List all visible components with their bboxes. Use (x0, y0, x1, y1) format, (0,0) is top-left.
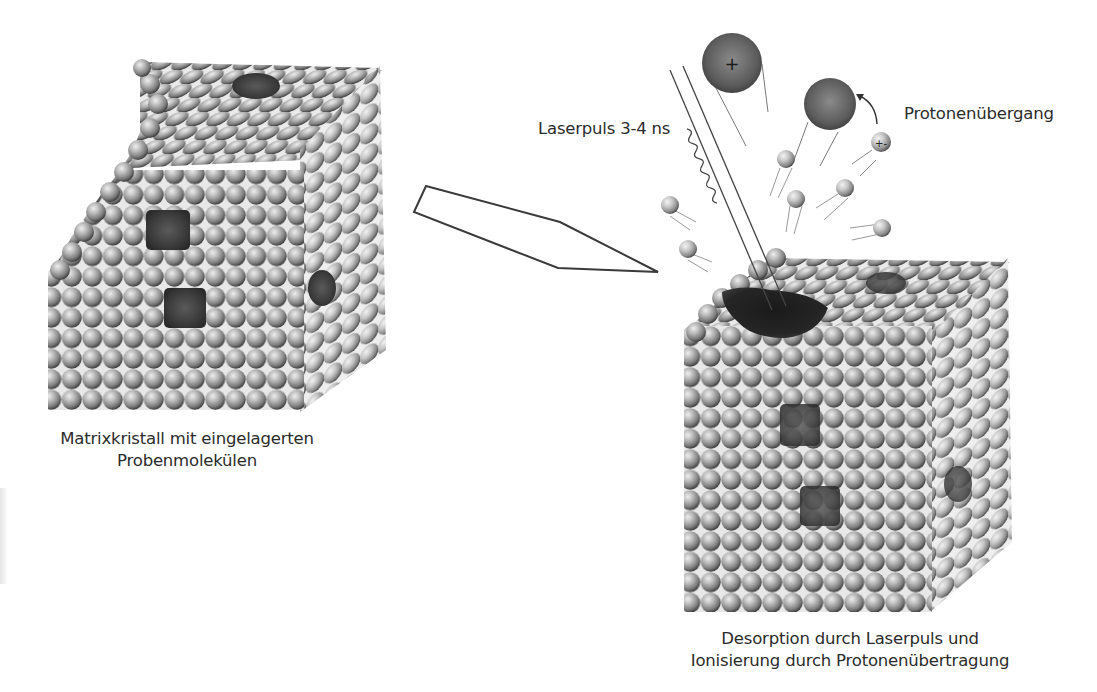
matrix-particle (786, 190, 805, 234)
matrix-particle (816, 179, 854, 220)
inclusion-2 (164, 288, 206, 328)
matrix-crystal-left (0, 0, 386, 412)
left-caption: Matrixkristall mit eingelagerten Probenm… (52, 428, 322, 472)
maldi-diagram: + +- (0, 0, 1097, 692)
analyte-ion: + (702, 33, 768, 146)
inclusion-1 (780, 404, 820, 446)
inclusion-4 (944, 466, 972, 502)
inclusion-4 (308, 270, 336, 306)
left-caption-line1: Matrixkristall mit eingelagerten (52, 428, 322, 450)
proton: +- (852, 132, 891, 176)
laser-pulse-label: Laserpuls 3-4 ns (538, 118, 670, 140)
right-caption: Desorption durch Laserpuls und Ionisieru… (660, 628, 1040, 672)
inclusion-2 (800, 486, 840, 526)
positive-charge-icon: + (724, 53, 739, 74)
matrix-particle (850, 219, 891, 240)
analyte-molecule (794, 78, 856, 166)
matrix-particle (770, 150, 795, 198)
proton-transfer-arrow (860, 96, 877, 124)
proton-transfer-label: Protonenübergang (904, 103, 1054, 125)
page-edge-artifact (0, 488, 6, 584)
crystal-front-face (684, 326, 932, 612)
inclusion-3 (232, 73, 280, 99)
inclusion-1 (146, 210, 190, 250)
inclusion-3 (866, 272, 906, 294)
right-caption-line1: Desorption durch Laserpuls und (660, 628, 1040, 650)
process-arrow (414, 186, 658, 272)
left-caption-line2: Probenmolekülen (52, 450, 322, 472)
proton-charge-icon: +- (875, 138, 887, 149)
matrix-particle (661, 196, 696, 230)
matrix-crystal-right (684, 248, 1012, 612)
right-caption-line2: Ionisierung durch Protonenübertragung (660, 650, 1040, 672)
